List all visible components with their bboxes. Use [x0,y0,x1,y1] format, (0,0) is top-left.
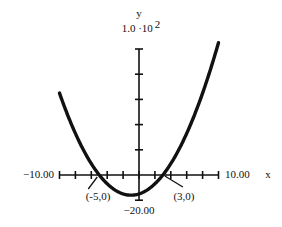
annotation-left-root: (-5,0) [86,190,111,203]
y-min-label: −20.00 [124,204,155,216]
axes [60,49,219,200]
annotation-right-root: (3,0) [173,190,194,203]
y-axis-label: y [136,7,142,19]
x-min-label: −10.00 [23,168,54,180]
y-scale-label: 1.0 ·102 [122,18,161,34]
parabola-chart: y 1.0 ·102 −10.00 10.00 x −20.00 (-5,0) … [0,0,282,227]
x-max-label: 10.00 [225,168,250,180]
x-axis-label: x [265,168,271,180]
